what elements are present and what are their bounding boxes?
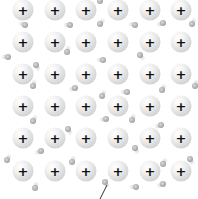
pointer-line — [0, 0, 198, 199]
metallic-lattice-diagram: ++++++++++++++++++++++++++++++++++++ — [0, 0, 198, 199]
